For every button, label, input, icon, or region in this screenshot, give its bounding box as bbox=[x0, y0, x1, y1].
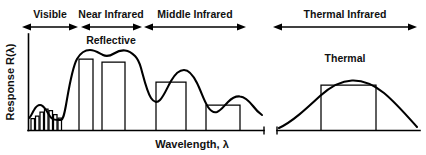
sensor-band bbox=[54, 115, 58, 131]
group-label-thermal: Thermal bbox=[325, 52, 366, 64]
band-label-near-infrared: Near Infrared bbox=[78, 8, 143, 20]
band-arrow-middle-infrared bbox=[144, 24, 246, 31]
sensor-band bbox=[36, 116, 40, 130]
sensor-band bbox=[79, 59, 93, 130]
sensor-band bbox=[31, 119, 35, 131]
band-label-middle-infrared: Middle Infrared bbox=[157, 8, 232, 20]
band-label-visible: Visible bbox=[33, 8, 67, 20]
band-arrow-near-infrared bbox=[81, 24, 142, 31]
sensor-band bbox=[49, 111, 53, 131]
x-axis-break-mark bbox=[264, 127, 277, 134]
group-label-reflective: Reflective bbox=[86, 34, 136, 46]
spectral-response-chart: Visible Near Infrared Middle Infrared Th… bbox=[0, 0, 426, 155]
spectral-response-figure: Visible Near Infrared Middle Infrared Th… bbox=[0, 0, 426, 155]
band-range-arrows bbox=[22, 24, 417, 31]
sensor-band bbox=[321, 85, 376, 130]
thermal-response-curve bbox=[279, 80, 417, 128]
x-axis-label: Wavelength, λ bbox=[155, 138, 229, 150]
reflective-response-curve bbox=[29, 50, 262, 120]
sensor-band bbox=[102, 62, 125, 130]
band-arrow-thermal-infrared bbox=[273, 24, 417, 31]
chart-axes bbox=[28, 34, 420, 134]
sensor-bands-thermal-infrared bbox=[321, 85, 376, 130]
y-axis-label: Response R(λ) bbox=[4, 43, 16, 120]
sensor-bands-near-infrared bbox=[79, 59, 125, 130]
sensor-band bbox=[40, 112, 44, 130]
sensor-bands-middle-infrared bbox=[156, 82, 240, 130]
band-arrow-visible bbox=[22, 24, 78, 31]
sensor-band bbox=[156, 82, 186, 130]
band-label-thermal-infrared: Thermal Infrared bbox=[304, 8, 387, 20]
